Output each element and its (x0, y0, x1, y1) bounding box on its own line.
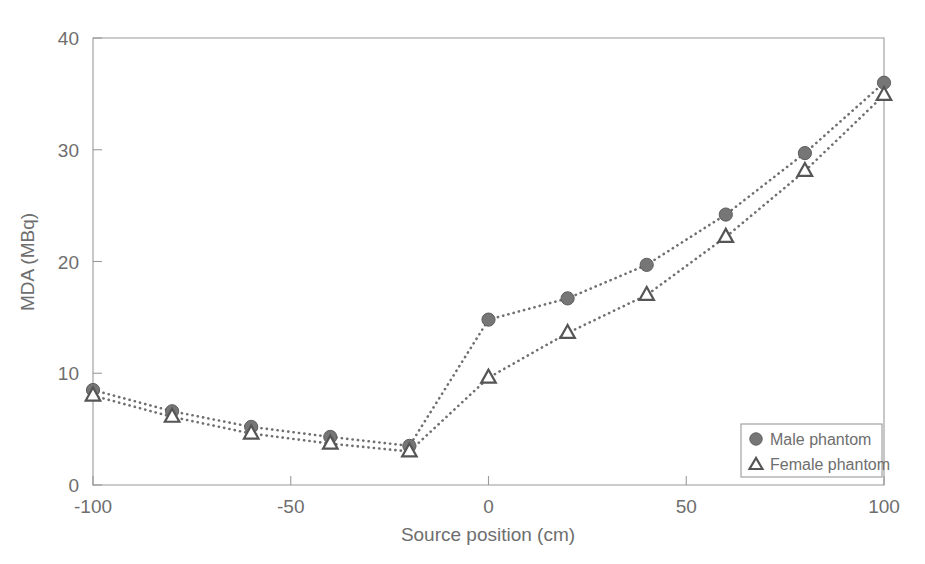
chart-legend: Male phantom Female phantom (741, 424, 890, 477)
data-point-marker (561, 292, 574, 305)
y-tick-label: 10 (58, 363, 79, 384)
data-point-marker (482, 313, 495, 326)
data-point-marker (481, 370, 496, 383)
series-male (86, 76, 890, 452)
x-tick-label: -100 (74, 496, 112, 517)
series-line-path (93, 83, 884, 446)
series-group (86, 76, 892, 456)
data-point-marker (877, 87, 892, 100)
x-axis-title: Source position (cm) (401, 524, 575, 545)
x-tick-label: 0 (483, 496, 494, 517)
y-tick-label: 40 (58, 28, 79, 49)
y-axis-title: MDA (MBq) (17, 213, 38, 311)
axis-frame-path (93, 38, 884, 485)
y-axis-ticks: 010203040 (58, 28, 102, 496)
series-female (86, 87, 892, 456)
data-point-marker (719, 208, 732, 221)
legend-label-female: Female phantom (770, 456, 890, 473)
line-chart-svg: 010203040 -100-50050100 Source position … (0, 0, 925, 564)
y-tick-label: 0 (68, 475, 79, 496)
data-point-marker (640, 258, 653, 271)
data-point-marker (719, 229, 734, 242)
legend-male-marker-icon (750, 433, 762, 445)
series-line-path (93, 95, 884, 451)
y-tick-label: 20 (58, 252, 79, 273)
chart-figure: 010203040 -100-50050100 Source position … (0, 0, 925, 564)
x-tick-label: -50 (277, 496, 304, 517)
x-tick-label: 50 (676, 496, 697, 517)
x-axis-ticks: -100-50050100 (74, 476, 900, 517)
y-tick-label: 30 (58, 140, 79, 161)
data-point-marker (560, 325, 575, 338)
plot-frame (93, 38, 884, 485)
data-point-marker (639, 287, 654, 300)
data-point-marker (798, 147, 811, 160)
x-tick-label: 100 (868, 496, 900, 517)
legend-label-male: Male phantom (770, 431, 871, 448)
data-point-marker (798, 163, 813, 176)
